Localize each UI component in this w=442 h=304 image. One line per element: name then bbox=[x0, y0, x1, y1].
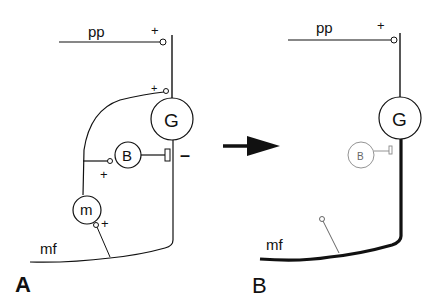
mf-label-a: mf bbox=[40, 240, 57, 257]
plus-sign-pp-a: + bbox=[151, 23, 159, 38]
pp-label-a: pp bbox=[88, 23, 105, 40]
pp-synapse-a bbox=[160, 39, 166, 45]
mf-label-b: mf bbox=[266, 236, 283, 253]
basket-label-a: B bbox=[122, 147, 132, 164]
mf-mossy-synapse bbox=[94, 223, 99, 228]
mossy-basket-synapse bbox=[108, 159, 113, 164]
mf-remnant-synapse-b bbox=[320, 217, 325, 222]
minus-sign-basket: – bbox=[180, 145, 190, 165]
mossy-label-a: m bbox=[80, 201, 93, 218]
mf-branch-b bbox=[323, 221, 339, 253]
plus-sign-pp-b: + bbox=[377, 18, 385, 33]
pp-label-b: pp bbox=[316, 19, 333, 36]
panel-b-label: B bbox=[252, 273, 267, 298]
pp-synapse-b bbox=[391, 37, 397, 43]
diagram-canvas: pp + + G B + – m + mf A pp + G B mf B bbox=[0, 0, 442, 304]
basket-synapse-a bbox=[165, 149, 170, 161]
panel-b bbox=[260, 33, 421, 260]
plus-sign-mf-mossy: + bbox=[101, 216, 109, 231]
plus-sign-mossy-basket: + bbox=[100, 167, 108, 182]
panel-a bbox=[30, 35, 193, 262]
basket-synapse-b bbox=[389, 146, 392, 154]
panel-a-label: A bbox=[15, 272, 31, 297]
granule-label-a: G bbox=[164, 110, 179, 131]
granule-label-b: G bbox=[392, 109, 407, 130]
mf-mossy-branch bbox=[97, 227, 110, 257]
transition-arrow-icon bbox=[223, 136, 280, 156]
basket-label-b: B bbox=[357, 151, 364, 162]
plus-sign-mossy-granule: + bbox=[151, 82, 157, 94]
mossy-granule-synapse bbox=[164, 89, 169, 94]
